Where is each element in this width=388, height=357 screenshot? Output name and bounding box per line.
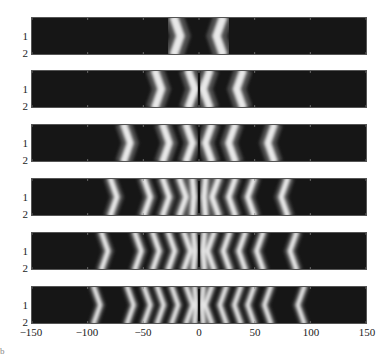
heatmap-panel-6 [31,286,367,324]
x-tick-label: −100 [76,326,99,338]
y-tick-label: 1 [16,30,28,42]
center-line [198,179,200,215]
heatmap-panel-1 [31,17,367,55]
y-tick-label: 1 [16,245,28,257]
x-tick-label: 0 [196,326,202,338]
x-tick-label: 50 [250,326,261,338]
y-tick-label: 2 [16,47,28,59]
center-line [198,125,200,161]
y-tick-label: 2 [16,208,28,220]
x-tick-label: −50 [134,326,151,338]
bright-band [195,287,197,323]
bright-band [193,233,195,269]
y-tick-label: 1 [16,299,28,311]
heatmap-panel-4 [31,178,367,216]
bright-band [202,287,204,323]
center-line [198,71,200,107]
y-tick-label: 2 [16,262,28,274]
x-tick-label: 100 [303,326,320,338]
y-tick-label: 1 [16,191,28,203]
heatmap-panel-3 [31,124,367,162]
y-tick-label: 2 [16,100,28,112]
bright-band [204,179,206,215]
center-line [198,233,200,269]
x-tick-label: −150 [20,326,43,338]
bright-band [203,233,205,269]
heatmap-panel-5 [31,232,367,270]
bright-band [192,179,194,215]
y-tick-label: 1 [16,137,28,149]
heatmap-panel-2 [31,70,367,108]
center-line [198,287,200,323]
y-tick-label: 2 [16,154,28,166]
x-tick-label: 150 [359,326,376,338]
y-tick-label: 1 [16,83,28,95]
figure-corner-label: b [0,346,5,356]
